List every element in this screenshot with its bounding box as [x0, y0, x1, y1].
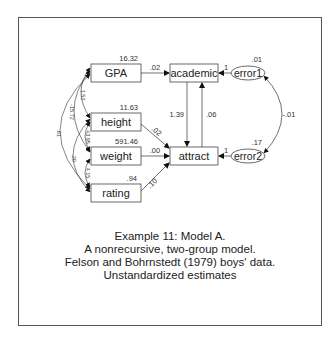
- path-error1-academic-estimate: 1: [224, 63, 228, 72]
- cov-error1-error2: -.01: [264, 76, 295, 153]
- node-academic-label: academic: [170, 67, 218, 79]
- path-height-attract-estimate: .02: [150, 124, 164, 138]
- path-academic-attract-estimate: 1.39: [169, 110, 184, 119]
- node-gpa-label: GPA: [105, 67, 128, 79]
- node-height-label: height: [101, 116, 131, 128]
- cov-weight-rating: 4.15: [85, 159, 91, 187]
- cov-gpa-weight-estimate: -15.72: [69, 104, 75, 120]
- node-height: height 11.63: [91, 103, 141, 131]
- error1-variance: .01: [252, 55, 262, 64]
- cov-height-rating-estimate: .20: [71, 154, 77, 162]
- node-error1: error1 .01: [231, 55, 265, 80]
- cov-error1-error2-estimate: -.01: [283, 110, 296, 119]
- caption-line-source: Felson and Bohrnstedt (1979) boys' data.: [18, 256, 322, 269]
- cov-weight-rating-estimate: 4.15: [85, 168, 91, 179]
- height-variance: 11.63: [120, 103, 138, 112]
- cov-gpa-height-estimate: 1.52: [80, 90, 86, 101]
- gpa-variance: 16.32: [119, 54, 138, 63]
- path-rating-attract: .10: [141, 163, 169, 191]
- error2-variance: .17: [252, 138, 262, 147]
- path-height-attract: .02: [141, 124, 169, 148]
- path-gpa-academic: .02: [141, 63, 169, 73]
- node-weight-label: weight: [99, 150, 132, 162]
- node-rating-label: rating: [102, 187, 130, 199]
- node-weight: weight 591.46: [91, 137, 141, 165]
- path-academic-attract: 1.39: [169, 82, 187, 146]
- node-error1-label: error1: [234, 67, 262, 79]
- path-weight-attract-estimate: .00: [150, 146, 160, 155]
- node-attract-label: attract: [179, 150, 210, 162]
- path-attract-academic: .06: [202, 83, 216, 147]
- figure-caption: Example 11: Model A. A nonrecursive, two…: [18, 230, 322, 282]
- path-diagram: GPA 16.32 height 11.63 weight 591.46 rat…: [0, 0, 335, 346]
- path-error2-attract: 1: [219, 146, 231, 156]
- path-error2-attract-estimate: 1: [224, 146, 228, 155]
- node-attract: attract: [170, 147, 218, 165]
- caption-line-model: A nonrecursive, two-group model.: [18, 243, 322, 256]
- node-error2-label: error2: [234, 150, 262, 162]
- path-attract-academic-estimate: .06: [206, 110, 216, 119]
- rating-variance: .94: [127, 174, 137, 183]
- cov-gpa-rating-estimate: .81: [56, 129, 62, 137]
- path-gpa-academic-estimate: .02: [150, 63, 160, 72]
- node-error2: error2 .17: [231, 138, 265, 163]
- path-rating-attract-estimate: .10: [145, 176, 159, 190]
- caption-line-estimates: Unstandardized estimates: [18, 269, 322, 282]
- node-rating: rating .94: [91, 174, 141, 202]
- node-gpa: GPA 16.32: [91, 54, 141, 82]
- path-error1-academic: 1: [219, 63, 231, 73]
- weight-variance: 591.46: [115, 137, 138, 146]
- node-academic: academic: [170, 64, 218, 82]
- caption-line-title: Example 11: Model A.: [18, 230, 322, 243]
- cov-height-weight-estimate: 43.95: [85, 130, 91, 144]
- path-weight-attract: .00: [141, 146, 169, 156]
